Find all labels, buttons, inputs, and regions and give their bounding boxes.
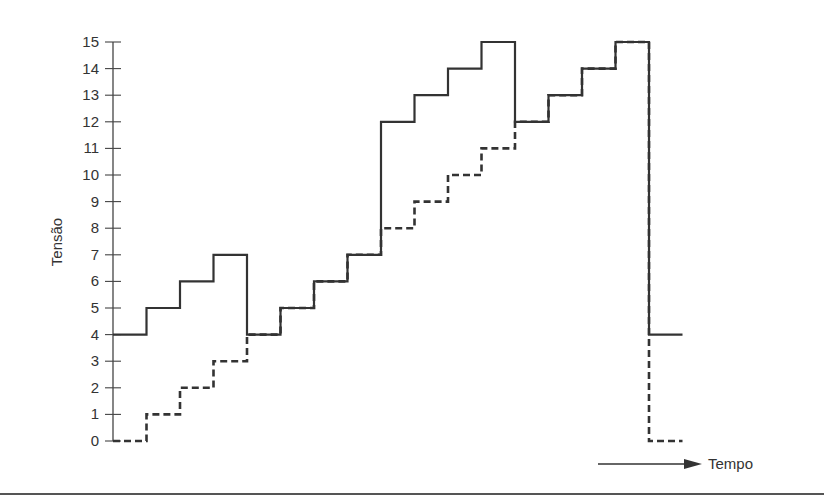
y-tick-label: 10	[82, 166, 99, 183]
step-chart: 0123456789101112131415 Tensão Tempo	[0, 0, 824, 498]
y-tick-label: 5	[91, 299, 99, 316]
y-tick-label: 7	[91, 246, 99, 263]
y-axis: 0123456789101112131415	[82, 33, 121, 449]
y-tick-label: 9	[91, 193, 99, 210]
arrow-head-icon	[684, 459, 702, 469]
x-axis-label: Tempo	[708, 455, 753, 472]
y-tick-label: 14	[82, 60, 99, 77]
y-tick-label: 12	[82, 113, 99, 130]
y-tick-label: 11	[83, 139, 99, 156]
y-tick-label: 8	[91, 219, 99, 236]
series-solid	[113, 42, 683, 335]
y-tick-label: 6	[91, 272, 99, 289]
y-tick-label: 13	[82, 86, 99, 103]
time-arrow	[598, 459, 702, 469]
series-group	[113, 42, 683, 441]
y-tick-label: 0	[91, 432, 99, 449]
series-dashed	[113, 42, 683, 441]
y-axis-label: Tensão	[48, 218, 65, 266]
y-tick-label: 15	[82, 33, 99, 50]
y-tick-label: 4	[91, 326, 99, 343]
y-tick-label: 2	[91, 379, 99, 396]
y-tick-label: 1	[91, 405, 99, 422]
y-tick-label: 3	[91, 352, 99, 369]
